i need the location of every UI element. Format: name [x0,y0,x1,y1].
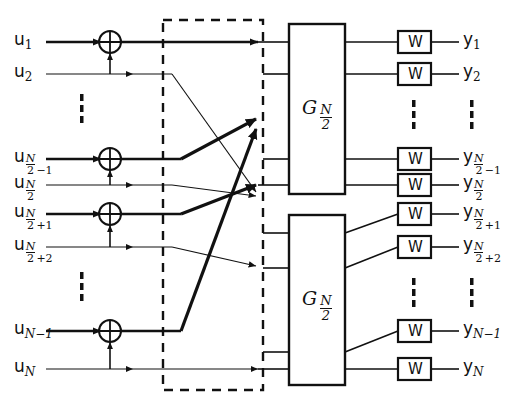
w-box-label-8: W [408,360,423,378]
w-box-label-4: W [408,176,423,194]
input-label-uN2p1: uN2+1 [14,203,53,231]
input-bold-lines [46,42,101,331]
output-label-yN2p2: yN2+2 [463,236,501,264]
xor-gate-crosses [99,31,121,342]
w-box-label-1: W [408,33,423,51]
w-box-to-output-connectors [431,42,459,369]
diagram-canvas: u1 u2 uN2−1 uN2 uN2+1 uN2+2 uN−1 uN GN2 … [0,0,524,412]
g-block-label-lower: GN2 [302,287,334,322]
input-label-uNm1: uN−1 [14,320,53,340]
output-label-yN: yN [463,358,484,378]
output-label-y2: y2 [463,63,481,83]
dashed-permutation-box [163,20,263,390]
w-box-label-6: W [408,238,423,256]
g-block-label-upper: GN2 [302,96,334,131]
output-label-yNm1: yN−1 [463,320,501,340]
w-box-label-3: W [408,150,423,168]
vertical-ellipsis-dots [80,94,474,307]
w-box-label-2: W [408,65,423,83]
input-label-u2: u2 [14,63,32,83]
permutation-thin-diagonals [172,74,256,266]
input-label-uN2p2: uN2+2 [14,236,53,264]
diagram-vector-layer [0,0,524,412]
g-block-rectangles [289,24,345,385]
output-label-y1: y1 [463,31,481,51]
gblock-to-w-connectors [345,42,398,369]
w-box-label-5: W [408,205,423,223]
w-box-label-7: W [408,322,423,340]
permutation-bold-diagonals [181,119,256,331]
xor-gate-symbols [99,31,121,342]
input-label-uN2: uN2 [14,174,36,202]
output-label-yN2p1: yN2+1 [463,203,501,231]
input-label-u1: u1 [14,31,32,51]
input-label-uN: uN [14,358,35,378]
dashed-box-to-gblock-connectors [258,42,289,369]
output-label-yN2: yN2 [463,174,485,202]
